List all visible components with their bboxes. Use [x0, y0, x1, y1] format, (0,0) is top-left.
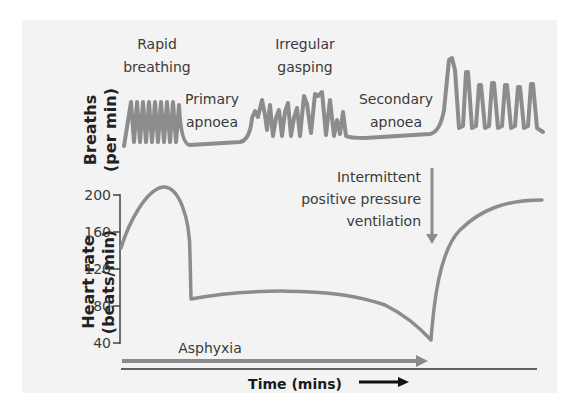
- svg-text:200: 200: [84, 187, 111, 203]
- svg-text:apnoea: apnoea: [370, 114, 422, 130]
- time-arrow-icon: [359, 377, 409, 387]
- svg-text:Breaths: Breaths: [81, 95, 100, 165]
- svg-text:160: 160: [84, 224, 111, 240]
- annotation-rapid-breathing: Rapid breathing: [123, 36, 191, 75]
- svg-text:40: 40: [93, 335, 111, 351]
- svg-text:Irregular: Irregular: [275, 36, 335, 52]
- annotation-irregular-gasping: Irregular gasping: [275, 36, 335, 75]
- svg-text:breathing: breathing: [123, 59, 191, 75]
- annotation-primary-apnoea: Primary apnoea: [185, 91, 239, 130]
- svg-text:(beats/min): (beats/min): [99, 230, 118, 334]
- physiology-chart: Breaths (per min) Rapid breathing Primar…: [0, 0, 566, 407]
- annotation-secondary-apnoea: Secondary apnoea: [359, 91, 433, 130]
- heart-rate-y-axis-title: Heart rate (beats/min): [79, 230, 118, 334]
- svg-text:gasping: gasping: [277, 59, 332, 75]
- svg-text:Secondary: Secondary: [359, 91, 433, 107]
- svg-text:Heart rate: Heart rate: [79, 235, 98, 328]
- breathing-y-axis-title: Breaths (per min): [81, 88, 120, 172]
- svg-text:apnoea: apnoea: [186, 114, 238, 130]
- annotation-ippv: Intermittent positive pressure ventilati…: [301, 169, 421, 229]
- svg-text:Rapid: Rapid: [137, 36, 177, 52]
- svg-text:ventilation: ventilation: [347, 213, 421, 229]
- svg-text:positive pressure: positive pressure: [301, 191, 421, 207]
- asphyxia-label: Asphyxia: [178, 340, 242, 356]
- svg-text:Intermittent: Intermittent: [337, 169, 422, 185]
- x-axis-title: Time (mins): [248, 376, 342, 392]
- asphyxia-arrow-icon: [122, 355, 428, 367]
- svg-text:Primary: Primary: [185, 91, 239, 107]
- ippv-down-arrow-icon: [426, 168, 438, 244]
- heart-rate-trace: [121, 187, 542, 340]
- svg-text:120: 120: [84, 261, 111, 277]
- svg-text:80: 80: [93, 298, 111, 314]
- svg-text:(per min): (per min): [101, 88, 120, 172]
